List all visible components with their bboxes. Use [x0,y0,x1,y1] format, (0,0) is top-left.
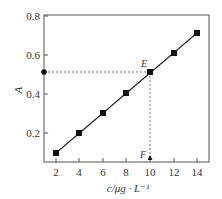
data-point [53,150,59,156]
point-F-label: F [139,149,147,160]
data-point [171,50,177,56]
y-axis-title: A [12,86,24,94]
x-tick-label: 12 [169,166,180,178]
x-tick-label: 6 [100,166,106,178]
plot-frame [44,15,209,162]
x-tick-label: 14 [192,166,204,178]
data-point [123,90,129,96]
y-tick-label: 0.8 [26,10,40,22]
point-E-label: E [140,58,147,69]
arrow-down-icon [148,155,153,160]
data-point [100,110,106,116]
y-tick-label: 0.2 [26,127,40,139]
x-tick-label: 4 [76,166,82,178]
y-tick-label: 0.6 [26,49,40,61]
x-axis-tick-labels: 2 4 6 8 10 12 14 [53,166,203,178]
x-tick-label: 2 [53,166,59,178]
x-axis-title: c/μg · L⁻¹ [107,182,149,194]
x-tick-label: 10 [145,166,157,178]
data-point-E [147,69,153,75]
y-tick-label: 0.4 [26,88,40,100]
data-point [194,30,200,36]
calibration-chart: 0.2 0.4 0.6 0.8 2 4 6 8 10 12 14 c/μg · … [0,0,222,199]
y-axis-tick-labels: 0.2 0.4 0.6 0.8 [26,10,40,139]
y-axis-marker-dot [41,69,47,75]
x-tick-label: 8 [123,166,129,178]
x-axis-ticks [56,158,197,162]
data-point [76,130,82,136]
